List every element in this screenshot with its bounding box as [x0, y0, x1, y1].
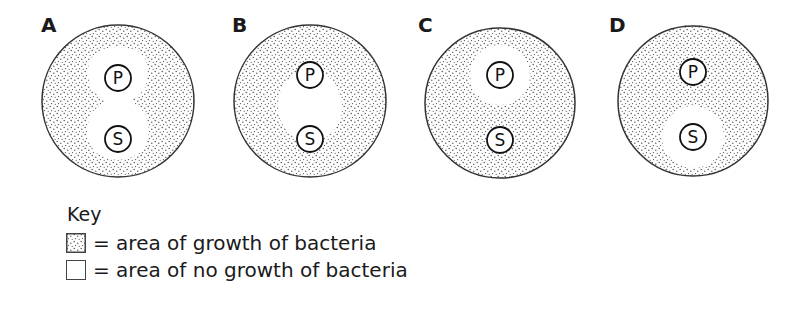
key-title: Key: [67, 203, 408, 225]
key-row-growth: = area of growth of bacteria: [66, 229, 408, 256]
petri-dishes-svg: PS PS PS PS: [0, 0, 806, 200]
dish-b: [234, 25, 386, 177]
dish-d: [618, 26, 768, 176]
blank-swatch-icon: [66, 260, 86, 280]
key-text-no-growth: = area of no growth of bacteria: [93, 258, 408, 282]
disc-labels: PS PS PS PS: [113, 62, 699, 150]
key-legend: Key = area of growth of bacteria = area …: [66, 203, 408, 283]
dish-label-a: A: [41, 15, 56, 35]
dish-c: [425, 28, 575, 178]
key-text-growth: = area of growth of bacteria: [93, 231, 376, 255]
svg-text:P: P: [495, 65, 505, 85]
svg-text:S: S: [305, 129, 316, 149]
key-row-no-growth: = area of no growth of bacteria: [66, 256, 408, 283]
svg-text:P: P: [688, 62, 698, 82]
svg-text:P: P: [113, 68, 123, 88]
stippled-swatch-icon: [66, 233, 86, 253]
svg-text:S: S: [688, 127, 699, 147]
dish-label-b: B: [232, 15, 247, 35]
svg-text:S: S: [495, 130, 506, 150]
dish-label-d: D: [609, 15, 626, 35]
dish-a: [42, 25, 194, 177]
dish-label-c: C: [418, 15, 433, 35]
svg-text:S: S: [113, 129, 124, 149]
svg-text:P: P: [305, 65, 315, 85]
petri-dish-figure: PS PS PS PS A B C D: [0, 0, 806, 200]
